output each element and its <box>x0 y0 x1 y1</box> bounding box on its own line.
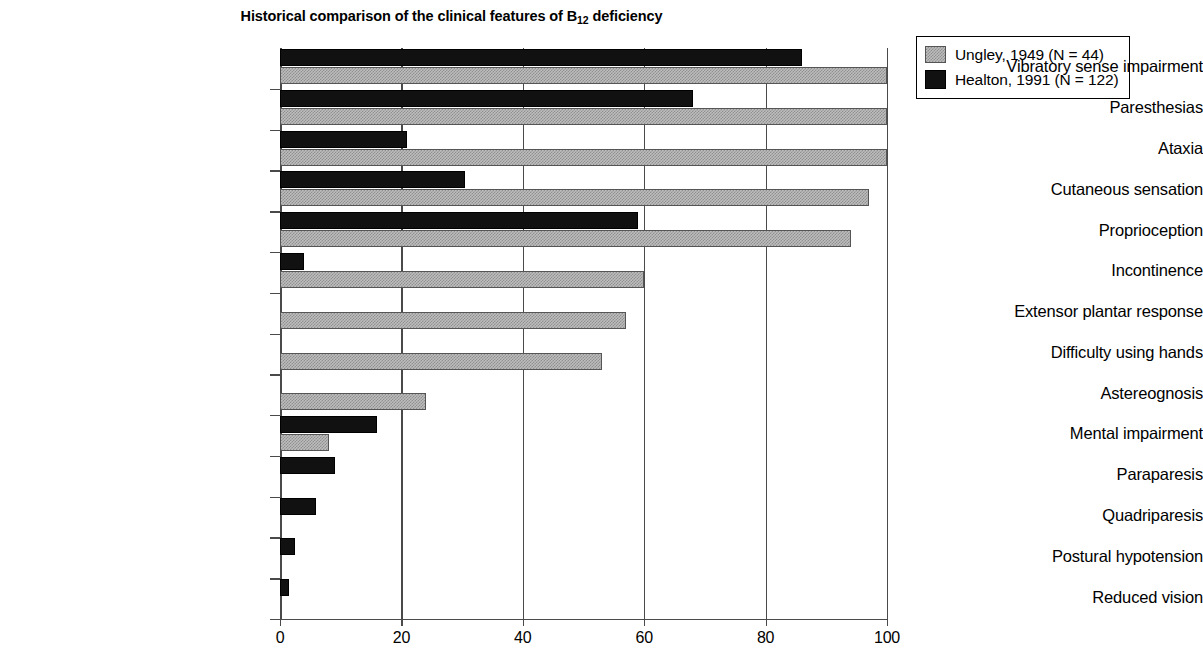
bar-ungley[interactable] <box>280 67 887 84</box>
bar-healton[interactable] <box>280 253 304 270</box>
y-axis-label: Extensor plantar response <box>933 302 1203 321</box>
bar-group <box>280 334 887 375</box>
bar-group <box>280 252 887 293</box>
y-tick <box>270 211 280 212</box>
bar-group <box>280 293 887 334</box>
bar-ungley[interactable] <box>280 108 887 125</box>
bar-ungley[interactable] <box>280 393 426 410</box>
x-tick-label-60: 60 <box>614 629 674 647</box>
bar-group <box>280 170 887 211</box>
bar-ungley[interactable] <box>280 271 644 288</box>
y-tick <box>270 89 280 90</box>
x-tick-40 <box>523 619 524 626</box>
y-tick <box>270 293 280 294</box>
bar-group <box>280 497 887 538</box>
x-tick-label-0: 0 <box>250 629 310 647</box>
bar-ungley[interactable] <box>280 149 887 166</box>
y-axis-label: Paresthesias <box>933 98 1203 117</box>
bar-group <box>280 537 887 578</box>
y-tick <box>270 170 280 171</box>
y-tick <box>270 537 280 538</box>
y-tick <box>270 415 280 416</box>
bar-group <box>280 374 887 415</box>
bar-group <box>280 130 887 171</box>
y-axis-label: Quadriparesis <box>933 506 1203 525</box>
y-tick <box>270 578 280 579</box>
bar-group <box>280 456 887 497</box>
y-tick <box>270 334 280 335</box>
bar-healton[interactable] <box>280 498 316 515</box>
y-axis-label: Proprioception <box>933 221 1203 240</box>
x-tick-label-100: 100 <box>857 629 917 647</box>
bar-healton[interactable] <box>280 49 802 66</box>
chart-title-tail: deficiency <box>589 8 663 24</box>
x-tick-20 <box>401 619 402 626</box>
bar-ungley[interactable] <box>280 189 869 206</box>
bar-healton[interactable] <box>280 171 465 188</box>
bar-healton[interactable] <box>280 90 693 107</box>
x-tick-label-40: 40 <box>493 629 553 647</box>
y-axis-label: Paraparesis <box>933 465 1203 484</box>
y-axis-label: Cutaneous sensation <box>933 180 1203 199</box>
x-tick-100 <box>887 619 888 626</box>
y-tick <box>270 456 280 457</box>
x-tick-0 <box>280 619 281 626</box>
x-tick-60 <box>644 619 645 626</box>
bar-group <box>280 578 887 619</box>
bar-group <box>280 415 887 456</box>
bar-group <box>280 211 887 252</box>
bar-group <box>280 48 887 89</box>
y-tick <box>270 130 280 131</box>
y-axis-label: Astereognosis <box>933 384 1203 403</box>
x-tick-label-20: 20 <box>371 629 431 647</box>
y-tick <box>270 252 280 253</box>
bar-ungley[interactable] <box>280 434 329 451</box>
y-axis-label: Reduced vision <box>933 588 1203 607</box>
y-axis-label: Ataxia <box>933 139 1203 158</box>
bar-ungley[interactable] <box>280 353 602 370</box>
gridline-100 <box>887 48 888 619</box>
bar-healton[interactable] <box>280 538 295 555</box>
bar-healton[interactable] <box>280 212 638 229</box>
chart-title-subscript: 12 <box>577 14 588 26</box>
y-tick <box>270 497 280 498</box>
chart-title-main: Historical comparison of the clinical fe… <box>241 8 578 24</box>
y-axis-label: Mental impairment <box>933 424 1203 443</box>
y-axis-label: Difficulty using hands <box>933 343 1203 362</box>
bar-group <box>280 89 887 130</box>
bar-healton[interactable] <box>280 131 407 148</box>
bar-healton[interactable] <box>280 416 377 433</box>
x-tick-80 <box>766 619 767 626</box>
chart-title: Historical comparison of the clinical fe… <box>0 8 903 24</box>
y-tick <box>270 619 280 620</box>
bar-ungley[interactable] <box>280 312 626 329</box>
y-axis-label: Postural hypotension <box>933 547 1203 566</box>
x-tick-label-80: 80 <box>736 629 796 647</box>
y-tick <box>270 374 280 375</box>
bar-healton[interactable] <box>280 579 289 596</box>
y-axis-label: Incontinence <box>933 261 1203 280</box>
y-axis-label: Vibratory sense impairment <box>933 57 1203 76</box>
bar-ungley[interactable] <box>280 230 851 247</box>
bar-healton[interactable] <box>280 457 335 474</box>
